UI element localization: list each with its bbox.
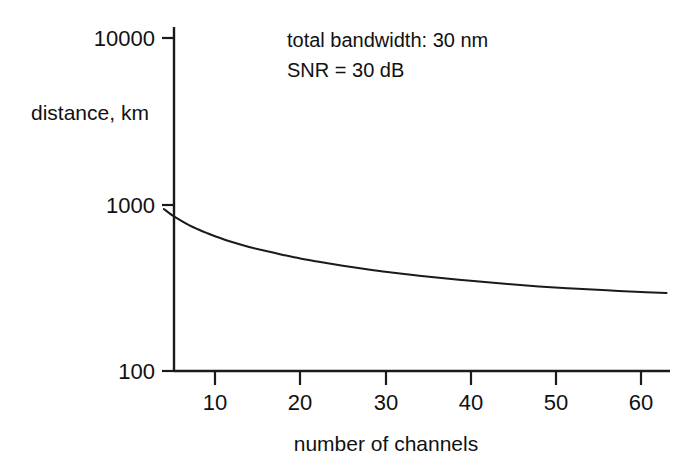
x-tick-label-50: 50	[544, 390, 568, 415]
chart-plot-area: 100 1000 10000 10 20 30 40 50 60 distanc…	[0, 0, 689, 472]
y-tick-label-100: 100	[118, 359, 155, 384]
y-tick-label-1000: 1000	[106, 193, 155, 218]
x-tick-label-20: 20	[288, 390, 312, 415]
y-tick-label-10000: 10000	[94, 26, 155, 51]
chart-figure: 100 1000 10000 10 20 30 40 50 60 distanc…	[0, 0, 689, 472]
x-tick-label-60: 60	[629, 390, 653, 415]
data-series-line	[164, 209, 667, 293]
x-tick-label-30: 30	[374, 390, 398, 415]
x-axis-ticks	[215, 371, 641, 385]
annotation-bandwidth: total bandwidth: 30 nm	[287, 29, 488, 51]
annotation-snr: SNR = 30 dB	[287, 59, 404, 81]
x-tick-label-40: 40	[459, 390, 483, 415]
x-tick-label-10: 10	[203, 390, 227, 415]
y-axis-title: distance, km	[31, 101, 149, 124]
x-axis-title: number of channels	[294, 432, 478, 455]
